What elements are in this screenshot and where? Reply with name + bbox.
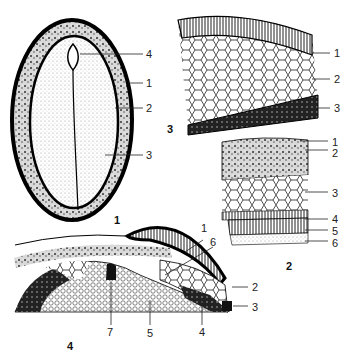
fig1-label-3: 3	[146, 150, 152, 161]
fig4-label-5: 5	[147, 328, 153, 339]
fig3-label-1: 1	[334, 48, 340, 59]
fig4-label-1: 1	[201, 223, 207, 234]
fig2-label-3: 3	[332, 188, 338, 199]
fig3-label-2: 2	[334, 74, 340, 85]
fig4-label-6: 6	[210, 237, 216, 248]
fig3-label-3: 3	[334, 103, 340, 114]
fig4-label-7: 7	[107, 327, 113, 338]
fig2-label-2: 2	[332, 148, 338, 159]
figure-3-tissue	[178, 16, 330, 135]
figure-2-layers	[222, 138, 328, 245]
fig2-label-6: 6	[332, 238, 338, 249]
fig2-label-5: 5	[332, 226, 338, 237]
fig2-number: 2	[286, 261, 292, 272]
botanical-diagram	[0, 0, 353, 361]
fig1-number: 1	[114, 215, 120, 226]
fig3-number: 3	[167, 124, 173, 135]
fig2-label-4: 4	[332, 214, 338, 225]
figure-1-grain	[12, 20, 143, 220]
fig4-label-2: 2	[252, 282, 258, 293]
fig4-label-3: 3	[252, 302, 258, 313]
fig1-label-4: 4	[146, 49, 152, 60]
fig1-label-1: 1	[146, 78, 152, 89]
fig1-label-2: 2	[146, 103, 152, 114]
fig4-number: 4	[67, 341, 73, 352]
fig4-label-4: 4	[199, 327, 205, 338]
